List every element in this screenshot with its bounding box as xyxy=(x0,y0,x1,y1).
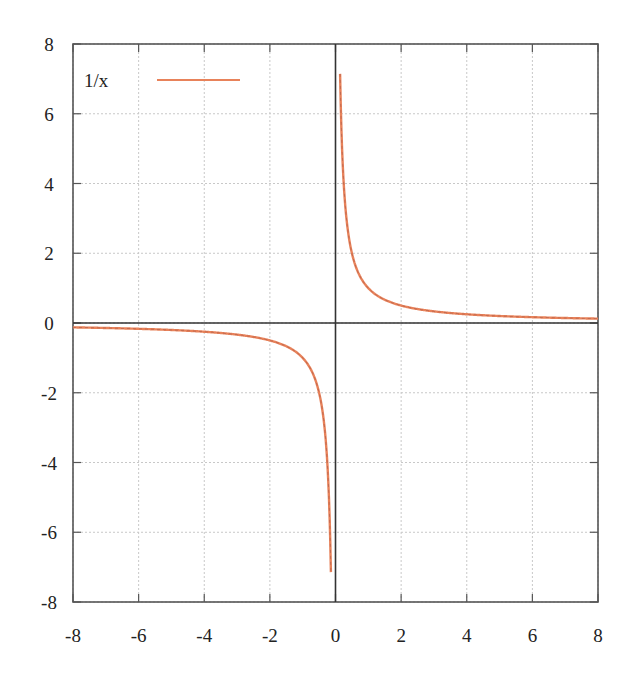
x-tick-label: 8 xyxy=(593,625,603,646)
y-tick-label: 2 xyxy=(44,243,54,264)
x-tick-label: -2 xyxy=(262,625,278,646)
x-tick-label: 4 xyxy=(462,625,472,646)
x-tick-label: -8 xyxy=(65,625,81,646)
y-tick-label: -8 xyxy=(41,592,57,613)
x-tick-label: -4 xyxy=(196,625,212,646)
legend-label: 1/x xyxy=(84,70,109,91)
x-tick-label: -6 xyxy=(131,625,147,646)
x-tick-label: 6 xyxy=(528,625,538,646)
y-tick-label: -4 xyxy=(41,453,57,474)
series-line-overlay xyxy=(73,327,331,572)
series-line-1-over-x xyxy=(73,327,331,572)
y-tick-labels: 86420-2-4-6-8 xyxy=(41,34,57,613)
y-tick-label: 0 xyxy=(44,313,54,334)
x-tick-labels: -8-6-4-202468 xyxy=(65,625,603,646)
series-line-1-over-x xyxy=(340,74,598,319)
zero-axes xyxy=(73,44,598,602)
series-line-overlay xyxy=(340,74,598,319)
x-tick-label: 0 xyxy=(331,625,341,646)
y-tick-label: -2 xyxy=(41,383,57,404)
y-tick-label: 4 xyxy=(44,174,54,195)
y-tick-label: -6 xyxy=(41,522,57,543)
x-tick-label: 2 xyxy=(396,625,406,646)
chart-canvas: -8-6-4-202468 86420-2-4-6-8 1/x xyxy=(0,0,628,687)
y-tick-label: 6 xyxy=(44,104,54,125)
legend: 1/x xyxy=(84,70,240,91)
y-tick-label: 8 xyxy=(44,34,54,55)
